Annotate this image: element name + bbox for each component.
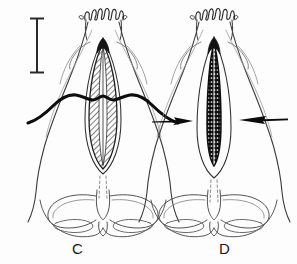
panel-label-c: C bbox=[72, 240, 83, 257]
figure-background bbox=[0, 0, 297, 264]
figure-container: C D bbox=[0, 0, 297, 264]
panel-label-d: D bbox=[219, 240, 230, 257]
figure-drawing bbox=[0, 0, 297, 264]
